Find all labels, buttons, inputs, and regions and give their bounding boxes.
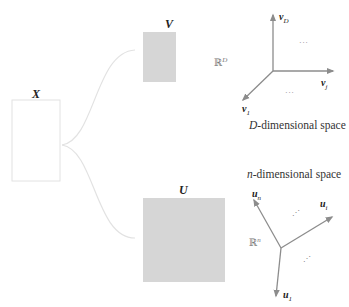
- vector-v-j-label: vj: [321, 78, 327, 91]
- matrix-v-label: V: [165, 18, 173, 30]
- n-space-caption: n-dimensional space: [247, 169, 341, 181]
- matrix-x-label: X: [32, 88, 40, 100]
- n-space-ellipsis-upper: ⋰: [292, 209, 301, 217]
- vector-u-n-label: un: [252, 189, 261, 202]
- diagram-canvas: [0, 0, 349, 307]
- matrix-u-label: U: [179, 184, 188, 196]
- n-space-symbol: ℝn: [249, 237, 261, 248]
- n-space-ellipsis-lower: ⋰: [303, 255, 312, 263]
- connector-x-to-u: [62, 145, 135, 238]
- matrix-x-box: [12, 100, 60, 181]
- d-space-ellipsis-lower: ···: [285, 89, 295, 97]
- matrix-v-box: [143, 32, 176, 82]
- vector-u-1-label: u1: [283, 290, 292, 303]
- d-space-ellipsis-upper: ···: [299, 39, 309, 47]
- d-space-symbol: ℝD: [214, 57, 227, 68]
- matrix-u-box: [143, 198, 225, 282]
- vector-u-i-label: ui: [320, 199, 328, 212]
- connector-x-to-v: [62, 50, 135, 145]
- vector-v-1-label: v1: [242, 104, 250, 117]
- d-space-caption: D-dimensional space: [249, 120, 346, 132]
- vector-v-d-label: vD: [279, 12, 289, 25]
